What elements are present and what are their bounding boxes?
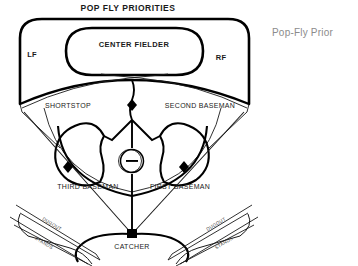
left-foul-line [20, 104, 60, 148]
left-dugout-band-inner [20, 213, 100, 260]
pop-fly-priorities-diagram: POP FLY PRIORITIES CENTER FIELDER LF RF … [0, 0, 358, 266]
right-foul-line [209, 104, 249, 148]
right-stands-band-outer [180, 217, 258, 264]
third-base-line [24, 112, 132, 234]
first-base-line [132, 112, 244, 234]
center-seam-upper [130, 80, 134, 148]
left-backstop-curve [18, 214, 92, 264]
home-plate-marker [127, 229, 137, 238]
center-fielder-zone [66, 28, 203, 75]
pitchers-rubber [126, 160, 138, 162]
right-stands-band-inner [176, 225, 254, 266]
catcher-zone-right [132, 234, 188, 262]
baseball-field-illustration [0, 0, 358, 266]
third-baseman-zone [55, 123, 104, 185]
left-infield-ridge [104, 120, 132, 140]
right-infield-ridge [132, 120, 160, 140]
catcher-zone-left [76, 234, 132, 262]
right-dugout-band-inner [168, 213, 248, 260]
left-stands-band-outer [10, 217, 88, 264]
second-base-marker [127, 99, 137, 111]
